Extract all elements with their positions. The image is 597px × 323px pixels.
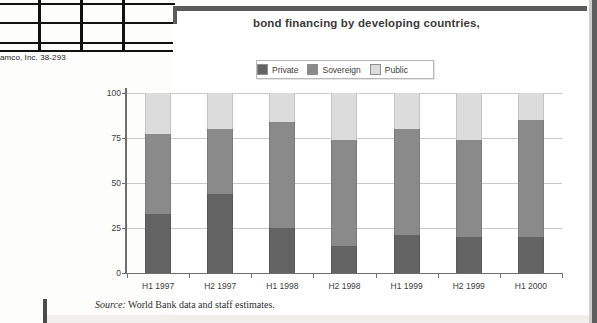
x-tick — [376, 273, 377, 278]
x-tick-label: H1 1999 — [376, 281, 438, 291]
plot-area — [127, 93, 562, 273]
bar-segment-sovereign — [269, 122, 295, 228]
x-axis-slot: H2 1998 — [313, 273, 375, 299]
bar-segment-sovereign — [518, 120, 544, 237]
bar-stack — [456, 93, 482, 273]
y-tick-label-0: 0 — [116, 268, 121, 278]
y-tick-label-25: 25 — [112, 223, 121, 233]
bar-segment-sovereign — [456, 140, 482, 237]
legend-item-private: Private — [257, 64, 298, 75]
bar-segment-private — [331, 246, 357, 273]
x-axis-slot: H1 2000 — [500, 273, 562, 299]
page-edge-shadow — [592, 0, 597, 323]
bar-stack — [394, 93, 420, 273]
x-tick — [127, 273, 128, 278]
source-label: Source: — [95, 299, 126, 310]
bar-segment-public — [518, 93, 544, 120]
chart-plot: 0255075100 H1 1997H2 1997H1 1998H2 1998H… — [95, 88, 565, 278]
y-tick-label-50: 50 — [112, 178, 121, 188]
x-tick — [500, 273, 501, 278]
legend-label-sovereign: Sovereign — [322, 65, 360, 75]
y-tick-label-75: 75 — [112, 133, 121, 143]
x-axis-slot: H1 1998 — [251, 273, 313, 299]
bar-segment-private — [207, 194, 233, 273]
bar-group — [376, 93, 438, 273]
bar-segment-public — [456, 93, 482, 140]
x-tick — [189, 273, 190, 278]
x-tick-label: H1 2000 — [500, 281, 562, 291]
bar-segment-public — [269, 93, 295, 122]
legend-swatch-sovereign-icon — [307, 64, 318, 75]
bar-group — [251, 93, 313, 273]
legend-label-private: Private — [272, 65, 298, 75]
bar-stack — [145, 93, 171, 273]
x-axis: H1 1997H2 1997H1 1998H2 1998H1 1999H2 19… — [127, 273, 562, 299]
page-bottom-band — [47, 315, 589, 323]
legend-swatch-public-icon — [370, 64, 381, 75]
bar-segment-sovereign — [145, 134, 171, 213]
x-tick — [438, 273, 439, 278]
legend-item-public: Public — [370, 64, 408, 75]
bar-group — [127, 93, 189, 273]
source-note: Source: World Bank data and staff estima… — [95, 299, 275, 310]
y-tick-label-100: 100 — [107, 88, 121, 98]
x-tick-label: H2 1997 — [189, 281, 251, 291]
table-fragment: amco, Inc. 38-293 — [0, 0, 175, 70]
bar-stack — [207, 93, 233, 273]
x-tick — [251, 273, 252, 278]
bar-segment-public — [145, 93, 171, 134]
bar-series — [127, 93, 562, 273]
bar-group — [438, 93, 500, 273]
bar-stack — [518, 93, 544, 273]
bar-segment-private — [518, 237, 544, 273]
bar-group — [313, 93, 375, 273]
bar-segment-public — [207, 93, 233, 129]
x-tick — [562, 273, 563, 278]
bar-stack — [331, 93, 357, 273]
bar-group — [500, 93, 562, 273]
bar-segment-private — [394, 235, 420, 273]
legend-label-public: Public — [385, 65, 408, 75]
legend-item-sovereign: Sovereign — [307, 64, 360, 75]
table-fragment-credit: amco, Inc. 38-293 — [0, 53, 66, 62]
legend-swatch-private-icon — [257, 64, 268, 75]
bar-segment-sovereign — [207, 129, 233, 194]
source-text: World Bank data and staff estimates. — [126, 299, 275, 310]
x-axis-slot: H2 1997 — [189, 273, 251, 299]
x-tick-label: H2 1998 — [313, 281, 375, 291]
y-axis: 0255075100 — [95, 88, 121, 278]
figure-top-rule — [173, 6, 587, 11]
figure-side-rule — [173, 6, 177, 24]
bar-segment-private — [269, 228, 295, 273]
x-axis-slot: H2 1999 — [438, 273, 500, 299]
x-tick-label: H2 1999 — [438, 281, 500, 291]
bar-segment-public — [394, 93, 420, 129]
page-edge-inner — [589, 0, 592, 323]
bar-segment-sovereign — [331, 140, 357, 246]
x-tick-label: H1 1997 — [127, 281, 189, 291]
bar-segment-public — [331, 93, 357, 140]
x-tick — [313, 273, 314, 278]
x-axis-slot: H1 1997 — [127, 273, 189, 299]
x-tick-label: H1 1998 — [251, 281, 313, 291]
bar-group — [189, 93, 251, 273]
bar-segment-private — [145, 214, 171, 273]
scanned-page: amco, Inc. 38-293 bond financing by deve… — [0, 0, 597, 323]
figure-title: bond financing by developing countries, — [253, 17, 480, 29]
bar-segment-private — [456, 237, 482, 273]
x-axis-slot: H1 1999 — [376, 273, 438, 299]
chart-legend: PrivateSovereignPublic — [256, 60, 434, 79]
bar-stack — [269, 93, 295, 273]
bar-segment-sovereign — [394, 129, 420, 235]
